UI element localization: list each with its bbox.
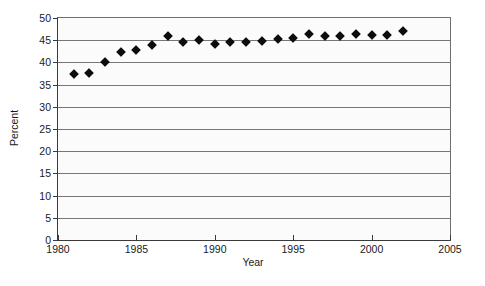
data-point <box>84 68 94 78</box>
y-tick-label: 25 <box>39 124 51 135</box>
data-point <box>304 29 314 39</box>
data-series-percent <box>58 18 450 240</box>
data-point <box>320 31 330 41</box>
y-tick-label: 40 <box>39 57 51 68</box>
data-point <box>398 26 408 36</box>
data-point <box>382 30 392 40</box>
data-point <box>273 34 283 44</box>
data-point <box>226 37 236 47</box>
data-point <box>163 31 173 41</box>
x-tick-label: 2000 <box>360 244 383 255</box>
data-point <box>116 47 126 57</box>
y-tick-label: 35 <box>39 79 51 90</box>
x-tick-mark <box>136 235 137 240</box>
chart-figure: 05101520253035404550 1980198519901995200… <box>0 0 485 286</box>
x-tick-label: 2005 <box>438 244 461 255</box>
data-point <box>210 39 220 49</box>
x-axis-title: Year <box>242 256 263 268</box>
data-point <box>194 35 204 45</box>
x-tick-label: 1990 <box>203 244 226 255</box>
y-tick-label: 15 <box>39 168 51 179</box>
y-axis-title: Percent <box>8 110 20 146</box>
x-tick-mark <box>372 235 373 240</box>
data-point <box>288 33 298 43</box>
x-tick-mark <box>215 235 216 240</box>
data-point <box>367 30 377 40</box>
x-tick-mark <box>58 235 59 240</box>
y-tick-mark <box>53 240 58 241</box>
data-point <box>131 45 141 55</box>
data-point <box>178 37 188 47</box>
y-tick-label: 50 <box>39 13 51 24</box>
data-point <box>351 29 361 39</box>
data-point <box>147 40 157 50</box>
data-point <box>241 37 251 47</box>
data-point <box>335 31 345 41</box>
x-tick-mark <box>293 235 294 240</box>
x-tick-label: 1995 <box>282 244 305 255</box>
y-tick-label: 45 <box>39 35 51 46</box>
y-tick-label: 30 <box>39 102 51 113</box>
data-point <box>257 36 267 46</box>
x-tick-mark <box>450 235 451 240</box>
y-tick-label: 20 <box>39 146 51 157</box>
data-point <box>69 69 79 79</box>
y-tick-label: 10 <box>39 190 51 201</box>
x-tick-label: 1980 <box>46 244 69 255</box>
x-tick-label: 1985 <box>125 244 148 255</box>
y-tick-label: 5 <box>45 213 51 224</box>
plot-area: 05101520253035404550 1980198519901995200… <box>57 17 451 241</box>
data-point <box>100 57 110 67</box>
